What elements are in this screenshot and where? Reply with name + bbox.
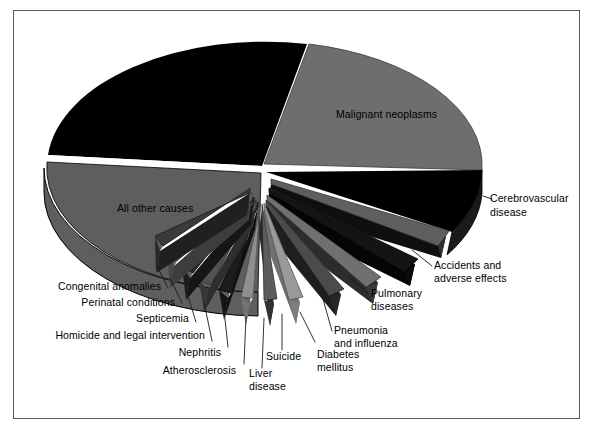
label-congenital-anomalies: Congenital anomalies bbox=[24, 280, 161, 293]
label-accidents-line1: Accidents and bbox=[434, 259, 501, 272]
figure-canvas: Malignant neoplasms All other causes Cer… bbox=[0, 0, 598, 434]
label-malignant-neoplasms: Malignant neoplasms bbox=[336, 108, 437, 121]
label-cerebrovascular-disease-line1: Cerebrovascular bbox=[490, 192, 569, 205]
label-diabetes-line1: Diabetes bbox=[317, 348, 359, 361]
label-septicemia: Septicemia bbox=[24, 312, 189, 325]
label-accidents-line2: adverse effects bbox=[434, 272, 507, 285]
label-liver-disease-line2: disease bbox=[249, 380, 286, 393]
slice-top-all-other-causes-upper bbox=[48, 42, 307, 166]
label-suicide: Suicide bbox=[266, 350, 301, 363]
label-homicide-and-legal-intervention: Homicide and legal intervention bbox=[24, 329, 205, 342]
label-pulmonary-diseases-line2: diseases bbox=[371, 300, 413, 313]
label-nephritis: Nephritis bbox=[44, 346, 221, 359]
label-pulmonary-diseases-line1: Pulmonary bbox=[371, 287, 422, 300]
label-perinatal-conditions: Perinatal conditions bbox=[24, 296, 175, 309]
label-all-other-causes: All other causes bbox=[117, 202, 193, 215]
label-cerebrovascular-disease-line2: disease bbox=[490, 206, 527, 219]
label-pneumonia-line1: Pneumonia bbox=[334, 324, 388, 337]
label-atherosclerosis: Atherosclerosis bbox=[64, 364, 236, 377]
label-liver-disease-line1: Liver bbox=[249, 367, 272, 380]
label-diabetes-line2: mellitus bbox=[317, 361, 353, 374]
